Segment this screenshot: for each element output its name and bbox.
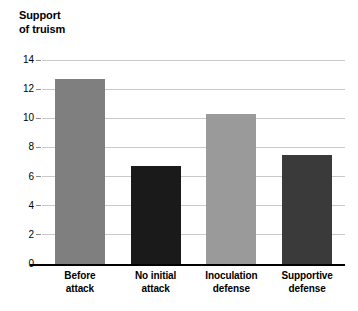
bar: [55, 79, 105, 264]
chart-title: Supportof truism: [19, 9, 65, 36]
x-axis-baseline: [30, 264, 345, 266]
bar-chart: Supportof truism 02468101214 Beforeattac…: [0, 0, 358, 311]
x-axis-category-label-line: Supportive: [269, 270, 345, 283]
y-axis-tick-mark: [36, 234, 41, 235]
y-axis-tick-mark: [36, 60, 41, 61]
gridline: [42, 60, 345, 61]
y-axis-tick-mark: [36, 176, 41, 177]
y-axis-tick-mark: [36, 118, 41, 119]
x-axis-category-label-line: Inoculation: [194, 270, 270, 283]
x-axis-category-label: Supportivedefense: [269, 270, 345, 295]
bar: [206, 114, 256, 264]
x-axis-category-labels: BeforeattackNo initialattackInoculationd…: [42, 270, 345, 306]
chart-title-line: Support: [19, 9, 65, 23]
x-axis-category-label: No initialattack: [118, 270, 194, 295]
x-axis-category-label-line: No initial: [118, 270, 194, 283]
y-axis-tick-mark: [36, 89, 41, 90]
x-axis-category-label-line: attack: [42, 283, 118, 296]
bar: [131, 166, 181, 264]
y-axis-tick-mark: [36, 147, 41, 148]
x-axis-category-label-line: defense: [194, 283, 270, 296]
x-axis-category-label-line: attack: [118, 283, 194, 296]
x-axis-category-label-line: Before: [42, 270, 118, 283]
x-axis-category-label-line: defense: [269, 283, 345, 296]
x-axis-category-label: Inoculationdefense: [194, 270, 270, 295]
chart-title-line: of truism: [19, 23, 65, 37]
y-axis-tick-mark: [36, 205, 41, 206]
plot-area: [42, 60, 345, 264]
bar: [282, 155, 332, 264]
x-axis-category-label: Beforeattack: [42, 270, 118, 295]
